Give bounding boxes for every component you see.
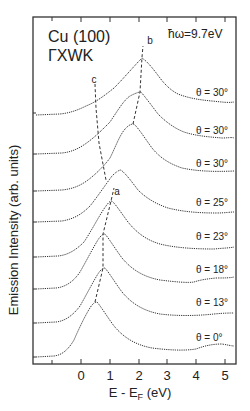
svg-text:θ = 30°: θ = 30° xyxy=(196,158,228,169)
plot-frame xyxy=(33,17,236,364)
curve-theta-23 xyxy=(36,201,234,257)
photon-energy-annotation: ħω=9.7eV xyxy=(168,27,222,41)
curve-theta-13 xyxy=(36,268,234,323)
spectra-chart: 0 1 2 3 4 5 E - EF (eV) Emission Intensi… xyxy=(0,0,250,411)
svg-text:3: 3 xyxy=(163,368,170,383)
svg-text:1: 1 xyxy=(106,368,113,383)
x-tick-labels: 0 1 2 3 4 5 xyxy=(77,368,228,383)
svg-text:θ = 23°: θ = 23° xyxy=(196,231,228,242)
guide-b xyxy=(133,46,143,124)
svg-text:4: 4 xyxy=(192,368,199,383)
svg-text:θ = 13°: θ = 13° xyxy=(196,297,228,308)
dispersion-guides xyxy=(95,46,143,302)
guide-a xyxy=(95,188,114,302)
x-ticks xyxy=(52,17,225,364)
svg-text:5: 5 xyxy=(221,368,228,383)
svg-text:0: 0 xyxy=(77,368,84,383)
svg-text:θ = 25°: θ = 25° xyxy=(196,197,228,208)
curve-theta-0 xyxy=(36,302,234,357)
guide-label-a: a xyxy=(114,186,120,197)
curve-theta-30-b xyxy=(36,92,234,154)
svg-text:θ = 18°: θ = 18° xyxy=(196,264,228,275)
svg-text:2: 2 xyxy=(135,368,142,383)
curve-theta-18 xyxy=(36,234,234,289)
svg-text:θ = 30°: θ = 30° xyxy=(196,125,228,136)
x-axis-label: E - EF (eV) xyxy=(109,385,172,402)
curve-theta-25 xyxy=(36,170,234,222)
curve-labels: θ = 30° θ = 30° θ = 30° θ = 25° θ = 23° … xyxy=(196,87,228,343)
svg-text:θ = 0°: θ = 0° xyxy=(196,332,223,343)
guide-label-b: b xyxy=(147,35,153,46)
chart-title: Cu (100) xyxy=(48,28,110,45)
svg-text:θ = 30°: θ = 30° xyxy=(196,87,228,98)
chart-subtitle: ΓXWK xyxy=(48,47,94,64)
y-axis-label: Emission Intensity (arb. units) xyxy=(6,145,21,316)
guide-label-c: c xyxy=(92,74,97,85)
